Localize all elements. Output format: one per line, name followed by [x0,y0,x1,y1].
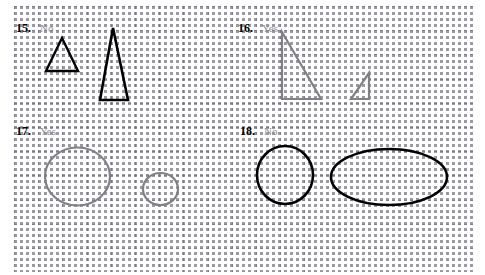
graph-paper-grid [14,6,476,272]
problem-answer-18: No [264,125,277,137]
problem-number-15: 15. [16,21,31,35]
problem-label-18: 18. No [240,122,277,138]
problem-number-16: 16. [238,21,253,35]
problem-answer-17: Yes [40,125,56,137]
problem-number-18: 18. [240,124,255,138]
grid-horizontal-lines [14,6,476,272]
problem-answer-15: No [40,22,53,34]
grid-vertical-lines [14,6,476,272]
problem-label-16: 16. Yes [238,19,278,35]
problem-number-17: 17. [16,124,31,138]
worksheet-page: 15. No 16. Yes 17. Yes 18. No [0,0,485,275]
problem-answer-16: Yes [262,22,278,34]
problem-label-15: 15. No [16,19,53,35]
page-margin-right [476,0,485,275]
problem-label-17: 17. Yes [16,122,56,138]
page-margin-top [0,0,485,6]
page-margin-left [0,0,14,275]
